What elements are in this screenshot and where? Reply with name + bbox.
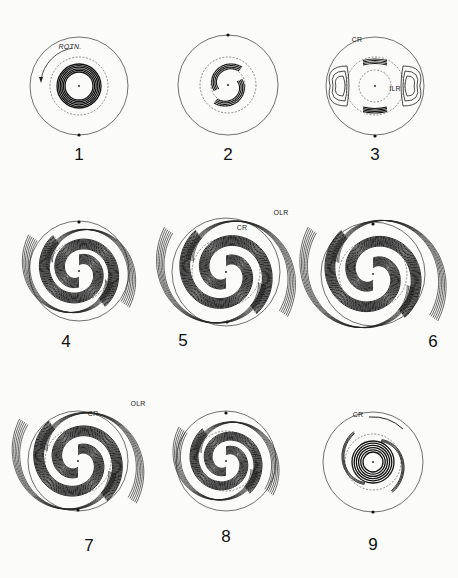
- center-dot: [78, 85, 80, 87]
- center-dot: [77, 460, 79, 462]
- center-dot: [225, 271, 227, 273]
- annotation-cr: CR: [353, 411, 364, 418]
- marker-dot: [77, 133, 80, 136]
- panel-7: [12, 411, 144, 512]
- panel-9: [323, 412, 423, 514]
- panel-number-2: 2: [223, 145, 232, 165]
- center-dot: [372, 273, 374, 275]
- center-dot: [374, 85, 376, 87]
- panel-2: [178, 33, 278, 135]
- marker-dot: [373, 134, 376, 137]
- panel-5: [157, 218, 296, 326]
- rotation-arrowhead-icon: [39, 77, 43, 83]
- marker-dot: [224, 411, 227, 414]
- panel-number-3: 3: [370, 145, 379, 165]
- annotation-ilr: ILR: [389, 85, 401, 92]
- side-lobe-contour: [335, 76, 345, 96]
- annotation-rotn: ROTN.: [59, 43, 82, 50]
- annotation-olr: OLR: [131, 400, 146, 407]
- center-dot: [225, 460, 227, 462]
- marker-dot: [77, 220, 80, 223]
- center-dot: [227, 84, 229, 86]
- panel-number-5: 5: [178, 331, 187, 351]
- center-dot: [372, 461, 374, 463]
- panel-4: [22, 220, 135, 321]
- annotation-cr: CR: [88, 410, 99, 417]
- panel-6: [300, 220, 446, 327]
- panel-number-7: 7: [84, 536, 93, 556]
- panel-8: [173, 411, 279, 511]
- density-contour: [363, 64, 387, 66]
- density-contour: [363, 107, 387, 109]
- marker-dot: [371, 222, 374, 225]
- marker-dot: [371, 510, 374, 513]
- center-dot: [78, 270, 80, 272]
- panel-1: [30, 37, 128, 137]
- annotation-cr: CR: [352, 36, 363, 43]
- panel-number-8: 8: [221, 527, 230, 547]
- side-lobe-contour: [405, 76, 415, 96]
- panel-number-1: 1: [74, 145, 83, 165]
- panel-number-4: 4: [61, 332, 70, 352]
- panel-number-9: 9: [368, 535, 377, 555]
- marker-dot: [226, 33, 229, 36]
- panel-3: [326, 37, 424, 138]
- annotation-cr: CR: [237, 224, 248, 231]
- panel-number-6: 6: [428, 332, 437, 352]
- annotation-olr: OLR: [274, 209, 289, 216]
